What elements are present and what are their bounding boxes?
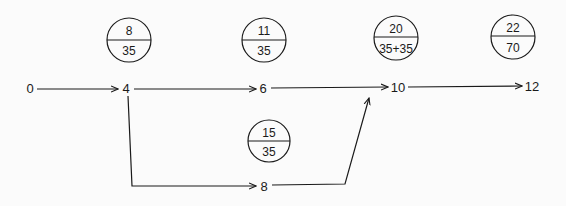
annotation-circle-1: 8 35 [107, 18, 151, 62]
annotation-top: 15 [262, 126, 276, 140]
node-label: 0 [26, 81, 33, 96]
network-diagram: 8 35 11 35 20 35+35 22 70 15 35 [0, 0, 566, 206]
node-label: 6 [259, 81, 266, 96]
annotation-bottom: 35 [122, 44, 136, 58]
node-label: 12 [525, 79, 539, 94]
node-label: 8 [260, 179, 267, 194]
annotation-bottom: 35+35 [379, 42, 413, 56]
annotation-circle-2: 11 35 [242, 18, 286, 62]
edge-10-12 [408, 86, 522, 87]
edge-4-8 [128, 96, 256, 186]
diagram-svg: 8 35 11 35 20 35+35 22 70 15 35 [0, 0, 566, 206]
annotation-bottom: 35 [262, 145, 276, 159]
annotation-circle-5: 15 35 [248, 120, 290, 162]
annotation-circle-3: 20 35+35 [374, 16, 418, 60]
annotation-bottom: 35 [257, 44, 271, 58]
node-label: 10 [391, 80, 405, 95]
annotation-top: 11 [258, 24, 271, 38]
annotation-top: 22 [506, 21, 520, 35]
annotation-circle-4: 22 70 [491, 15, 535, 59]
annotation-top: 20 [389, 22, 403, 36]
edge-6-10 [271, 87, 388, 88]
annotation-bottom: 70 [506, 41, 520, 55]
annotation-top: 8 [126, 24, 133, 38]
node-label: 4 [122, 81, 129, 96]
